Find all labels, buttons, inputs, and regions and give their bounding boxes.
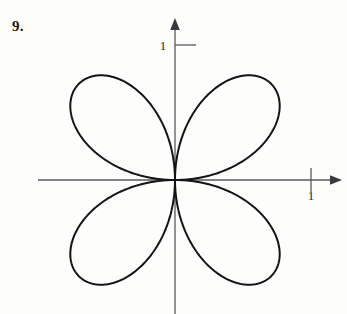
polar-rose-figure: 1 1 <box>0 0 347 314</box>
y-axis-arrowhead <box>170 18 180 30</box>
y-axis-tick-label: 1 <box>160 38 167 53</box>
figure-page: 9. 1 1 <box>0 0 347 314</box>
x-axis-arrowhead <box>330 175 342 185</box>
x-axis-tick-label: 1 <box>308 188 315 203</box>
